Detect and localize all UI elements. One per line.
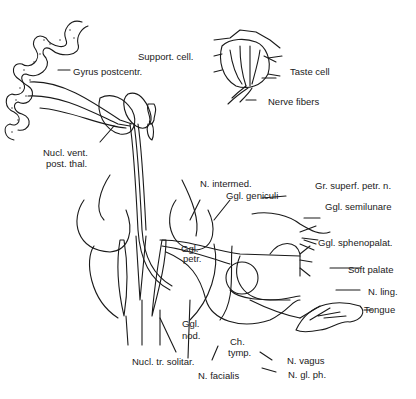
label-taste-cell: Taste cell (290, 66, 330, 77)
label-ggl-nod: Ggl. (182, 318, 199, 329)
label-nerve-fibers: Nerve fibers (268, 96, 319, 107)
gustatory-pathway-drawing (0, 0, 416, 399)
taste-bud-inset (214, 30, 282, 104)
label-post-thal: post. thal. (46, 158, 87, 169)
label-ggl-sphenopalat: Ggl. sphenopalat. (318, 237, 392, 248)
label-ch-tymp: Ch. (230, 336, 245, 347)
label-petr: petr. (183, 253, 202, 264)
label-nod: nod. (182, 330, 201, 341)
label-n-facialis: N. facialis (198, 370, 239, 381)
label-tymp: tymp. (228, 347, 251, 358)
label-nucl-vent: Nucl. vent. (43, 147, 88, 158)
label-gr-superf-petr: Gr. superf. petr. n. (315, 180, 391, 191)
label-support-cell: Support. cell. (138, 51, 193, 62)
label-ggl-semilunare: Ggl. semilunare (325, 201, 392, 212)
label-n-intermed: N. intermed. (200, 178, 252, 189)
label-n-vagus: N. vagus (287, 355, 325, 366)
label-gyrus-postcentr: Gyrus postcentr. (73, 66, 142, 77)
label-ggl-geniculi: Ggl. geniculi (226, 190, 278, 201)
label-tongue: Tongue (364, 304, 395, 315)
label-nucl-tr-solitar: Nucl. tr. solitar. (132, 356, 194, 367)
label-soft-palate: Soft palate (348, 264, 393, 275)
label-n-gl-ph: N. gl. ph. (288, 369, 326, 380)
cortex-gyri (5, 21, 88, 140)
label-n-ling: N. ling. (368, 286, 398, 297)
